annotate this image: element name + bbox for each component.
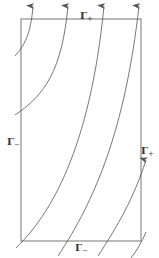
flow-line-4: [58, 6, 139, 256]
label-bottom-gamma-minus: Γ−: [75, 243, 88, 255]
flow-line-1: [15, 6, 33, 56]
subscript-minus: −: [14, 141, 20, 149]
label-top-gamma-plus: Γ+: [80, 11, 93, 23]
subscript-minus: −: [82, 247, 88, 255]
flow-diagram: [0, 0, 159, 258]
label-right-gamma-plus: Γ+: [141, 146, 154, 158]
flow-line-3: [16, 6, 104, 248]
flow-line-5: [98, 160, 146, 256]
subscript-plus: +: [148, 150, 154, 158]
flow-line-2: [15, 6, 68, 115]
flow-line-6: [131, 232, 146, 258]
label-left-gamma-minus: Γ−: [7, 137, 20, 149]
subscript-plus: +: [87, 15, 93, 23]
